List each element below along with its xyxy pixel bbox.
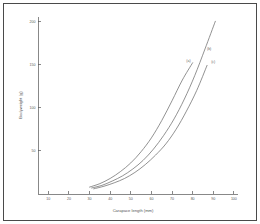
x-tick-label: 10 <box>46 197 50 201</box>
x-tick-label: 40 <box>108 197 112 201</box>
x-tick-label: 100 <box>231 197 237 201</box>
x-tick-label: 50 <box>129 197 133 201</box>
y-tick-label: 50 <box>32 149 36 153</box>
curves-group <box>90 21 216 189</box>
x-tick-label: 60 <box>149 197 153 201</box>
figure-page: 10203040506070809010050100150200 (a)(b)(… <box>0 0 260 224</box>
curve-label-b: (b) <box>207 47 211 51</box>
y-tick-label: 150 <box>30 63 36 67</box>
y-tick-label: 100 <box>30 106 36 110</box>
y-axis-title: Bodyweight (g) <box>18 91 23 119</box>
growth-curve-c <box>94 65 207 188</box>
growth-curve-a <box>90 63 193 187</box>
x-tick-label: 30 <box>88 197 92 201</box>
x-axis-title: Carapace length (mm) <box>113 208 154 213</box>
y-tick-label: 200 <box>30 20 36 24</box>
growth-curve-chart: 10203040506070809010050100150200 (a)(b)(… <box>0 0 260 224</box>
x-tick-label: 80 <box>191 197 195 201</box>
curve-labels-group: (a)(b)(c) <box>186 47 215 65</box>
growth-curve-b <box>92 21 216 188</box>
x-tick-label: 70 <box>170 197 174 201</box>
curve-label-a: (a) <box>186 59 190 63</box>
x-tick-label: 90 <box>211 197 215 201</box>
curve-label-c: (c) <box>211 60 215 64</box>
x-tick-label: 20 <box>67 197 71 201</box>
